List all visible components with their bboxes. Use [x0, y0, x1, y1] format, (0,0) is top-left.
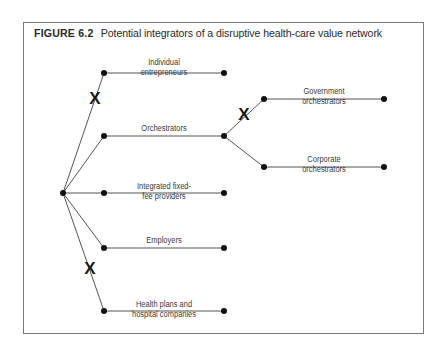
- label-line: Individual: [120, 57, 208, 67]
- node-orchestrators-end: [221, 133, 227, 139]
- label-line: Employers: [120, 235, 208, 245]
- blocked-x-icon-individual: X: [88, 91, 102, 107]
- node-individual-end: [221, 70, 227, 76]
- label-employers: Employers: [120, 235, 208, 245]
- blocked-x-icon-government: X: [237, 107, 251, 123]
- label-line: orchestrators: [280, 164, 368, 174]
- root-node: [60, 190, 66, 196]
- nodes: [60, 70, 387, 314]
- edge-root-health-plans: [63, 193, 104, 311]
- label-line: Orchestrators: [120, 123, 208, 133]
- label-individual-entrepreneurs: Individual entrepreneurs: [120, 57, 208, 77]
- node-corporate-end: [381, 164, 387, 170]
- label-health-plans-hospital-companies: Health plans and hospital companies: [120, 299, 208, 319]
- label-corporate-orchestrators: Corporate orchestrators: [280, 154, 368, 174]
- node-integrated-start: [101, 190, 107, 196]
- node-health-plans-end: [221, 308, 227, 314]
- node-orchestrators-start: [101, 133, 107, 139]
- edge-root-orchestrators: [63, 136, 104, 193]
- label-orchestrators: Orchestrators: [120, 123, 208, 133]
- label-line: Integrated fixed-: [120, 181, 208, 191]
- label-line: hospital companies: [120, 309, 208, 319]
- node-employers-start: [101, 245, 107, 251]
- node-employers-end: [221, 245, 227, 251]
- label-line: entrepreneurs: [120, 67, 208, 77]
- edge-orchestrators-corporate: [224, 136, 264, 167]
- node-government-start: [261, 96, 267, 102]
- node-individual-start: [101, 70, 107, 76]
- label-line: fee providers: [120, 191, 208, 201]
- label-line: Government: [280, 86, 368, 96]
- label-line: orchestrators: [280, 96, 368, 106]
- node-integrated-end: [221, 190, 227, 196]
- node-corporate-start: [261, 164, 267, 170]
- label-government-orchestrators: Government orchestrators: [280, 86, 368, 106]
- blocked-x-icon-health-plans: X: [83, 261, 97, 277]
- node-health-plans-start: [101, 308, 107, 314]
- edge-root-employers: [63, 193, 104, 248]
- label-integrated-fixed-fee-providers: Integrated fixed- fee providers: [120, 181, 208, 201]
- label-line: Health plans and: [120, 299, 208, 309]
- value-network-diagram: [0, 0, 448, 354]
- label-line: Corporate: [280, 154, 368, 164]
- node-government-end: [381, 96, 387, 102]
